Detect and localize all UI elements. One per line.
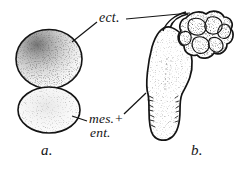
label-ectoderm: ect. xyxy=(99,10,120,26)
leader-line-ect-to-sphere xyxy=(72,22,97,42)
embryology-figure: ect. mes.+ ent. a. b. xyxy=(0,0,244,169)
leader-line-mes-to-larva xyxy=(124,93,146,114)
label-endoderm: ent. xyxy=(90,125,111,141)
caption-panel-a: a. xyxy=(41,142,53,159)
ectoderm-sphere xyxy=(14,28,86,92)
caption-panel-b: b. xyxy=(191,142,203,159)
figure-drawing xyxy=(0,0,244,169)
mesendoderm-sphere xyxy=(17,86,82,136)
